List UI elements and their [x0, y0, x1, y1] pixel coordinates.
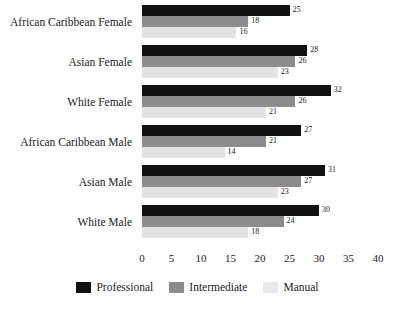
bar-value-label: 25 — [290, 4, 301, 15]
bar-value-label: 28 — [307, 44, 318, 55]
bar-row: 21 — [142, 136, 378, 147]
category-axis-labels: African Caribbean FemaleAsian FemaleWhit… — [0, 5, 136, 248]
bar-group: 312723 — [142, 165, 378, 198]
x-tick-label: 25 — [284, 252, 295, 264]
bar-row: 23 — [142, 187, 378, 198]
legend-label: Intermediate — [189, 281, 247, 293]
bar-row: 32 — [142, 85, 378, 96]
legend-item-intermediate: Intermediate — [169, 281, 247, 293]
legend-label: Manual — [283, 281, 318, 293]
bar-intermediate — [142, 136, 266, 147]
bar-manual — [142, 107, 266, 118]
legend-swatch-icon — [76, 282, 91, 293]
bar-value-label: 21 — [266, 135, 277, 146]
bar-value-label: 32 — [331, 84, 342, 95]
x-tick-label: 30 — [314, 252, 325, 264]
bar-row: 30 — [142, 205, 378, 216]
x-tick-label: 35 — [343, 252, 354, 264]
bar-row: 26 — [142, 56, 378, 67]
bar-value-label: 27 — [301, 175, 312, 186]
bar-row: 27 — [142, 176, 378, 187]
bar-row: 21 — [142, 107, 378, 118]
bar-manual — [142, 227, 248, 238]
legend-item-professional: Professional — [76, 281, 153, 293]
bar-value-label: 30 — [319, 204, 330, 215]
bar-group: 272114 — [142, 125, 378, 158]
legend-label: Professional — [96, 281, 153, 293]
bar-professional — [142, 125, 301, 136]
bar-professional — [142, 5, 290, 16]
bar-row: 16 — [142, 27, 378, 38]
bar-intermediate — [142, 216, 284, 227]
bar-row: 26 — [142, 96, 378, 107]
bar-value-label: 14 — [225, 146, 236, 157]
bar-intermediate — [142, 56, 295, 67]
bar-value-label: 24 — [284, 215, 295, 226]
bar-row: 27 — [142, 125, 378, 136]
bar-row: 18 — [142, 227, 378, 238]
category-label: White Female — [0, 85, 136, 118]
legend-swatch-icon — [169, 282, 184, 293]
bar-value-label: 31 — [325, 164, 336, 175]
bar-value-label: 26 — [295, 95, 306, 106]
x-tick-label: 5 — [169, 252, 175, 264]
bar-value-label: 23 — [278, 66, 289, 77]
legend-item-manual: Manual — [263, 281, 318, 293]
bar-professional — [142, 45, 307, 56]
bar-value-label: 26 — [295, 55, 306, 66]
bar-group: 282623 — [142, 45, 378, 78]
bar-row: 25 — [142, 5, 378, 16]
category-label: White Male — [0, 205, 136, 238]
bar-row: 18 — [142, 16, 378, 27]
category-label: Asian Male — [0, 165, 136, 198]
bar-manual — [142, 27, 236, 38]
x-tick-label: 20 — [255, 252, 266, 264]
bar-group: 322621 — [142, 85, 378, 118]
bar-row: 24 — [142, 216, 378, 227]
bar-value-label: 18 — [248, 226, 259, 237]
bar-group: 302418 — [142, 205, 378, 238]
bar-value-label: 27 — [301, 124, 312, 135]
bar-intermediate — [142, 16, 248, 27]
chart-legend: ProfessionalIntermediateManual — [0, 281, 395, 293]
plot-area: 251816282623322621272114312723302418 — [142, 5, 378, 248]
bar-row: 28 — [142, 45, 378, 56]
x-tick-label: 0 — [139, 252, 145, 264]
bar-professional — [142, 165, 325, 176]
bar-manual — [142, 187, 278, 198]
bar-chart: African Caribbean FemaleAsian FemaleWhit… — [0, 0, 395, 309]
category-label: African Caribbean Female — [0, 5, 136, 38]
category-label: African Caribbean Male — [0, 125, 136, 158]
bar-row: 14 — [142, 147, 378, 158]
legend-swatch-icon — [263, 282, 278, 293]
bar-value-label: 23 — [278, 186, 289, 197]
x-axis: 0510152025303540 — [142, 252, 378, 268]
bar-manual — [142, 147, 225, 158]
bar-value-label: 18 — [248, 15, 259, 26]
x-tick-label: 10 — [196, 252, 207, 264]
bar-value-label: 16 — [236, 26, 247, 37]
x-tick-label: 40 — [373, 252, 384, 264]
bar-value-label: 21 — [266, 106, 277, 117]
x-tick-label: 15 — [225, 252, 236, 264]
bar-row: 31 — [142, 165, 378, 176]
bar-group: 251816 — [142, 5, 378, 38]
bar-row: 23 — [142, 67, 378, 78]
bar-manual — [142, 67, 278, 78]
category-label: Asian Female — [0, 45, 136, 78]
